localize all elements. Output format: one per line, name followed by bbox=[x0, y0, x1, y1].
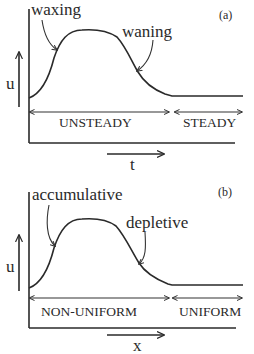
panel-b: (b) u accumulative depletive NON-UNIFORM… bbox=[6, 185, 243, 354]
panel-a: (a) u waxing waning UNSTEADY STEADY t bbox=[6, 0, 243, 174]
unsteady-label: UNSTEADY bbox=[59, 115, 132, 130]
x-axis-label: t bbox=[130, 155, 135, 174]
non-uniform-label: NON-UNIFORM bbox=[41, 304, 137, 319]
x-axis-label: x bbox=[133, 336, 142, 354]
flow-classification-diagram: (a) u waxing waning UNSTEADY STEADY t (b… bbox=[0, 0, 254, 354]
depletive-label: depletive bbox=[126, 213, 188, 232]
panel-tag: (a) bbox=[219, 8, 232, 22]
waning-pointer-icon bbox=[137, 40, 153, 71]
uniform-label: UNIFORM bbox=[179, 304, 241, 319]
y-axis-label: u bbox=[6, 74, 15, 93]
depletive-pointer-icon bbox=[139, 232, 145, 264]
steady-label: STEADY bbox=[183, 115, 236, 130]
y-axis-label: u bbox=[6, 257, 15, 276]
waning-label: waning bbox=[122, 22, 173, 41]
accumulative-pointer-icon bbox=[47, 205, 55, 246]
waxing-label: waxing bbox=[31, 0, 82, 19]
panel-tag: (b) bbox=[218, 185, 232, 199]
accumulative-label: accumulative bbox=[32, 185, 123, 204]
waxing-pointer-icon bbox=[42, 20, 57, 50]
